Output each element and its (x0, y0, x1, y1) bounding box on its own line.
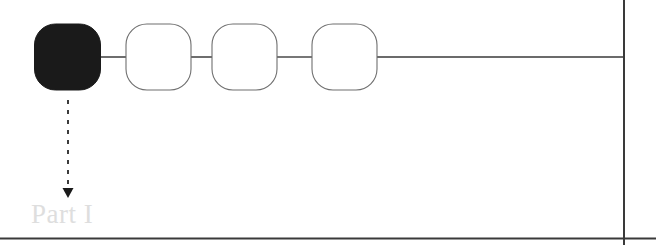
part-caption: Part I (31, 198, 93, 230)
page-root: Part I (0, 0, 656, 245)
part-pointer-arrowhead-icon (63, 188, 74, 198)
chain-node-2-outline[interactable] (126, 24, 191, 90)
chain-node-4-outline[interactable] (312, 24, 377, 90)
chain-node-1-filled[interactable] (35, 24, 101, 90)
chain-diagram (0, 0, 656, 245)
chain-node-3-outline[interactable] (212, 24, 277, 90)
part-pointer-arrow (63, 100, 74, 198)
